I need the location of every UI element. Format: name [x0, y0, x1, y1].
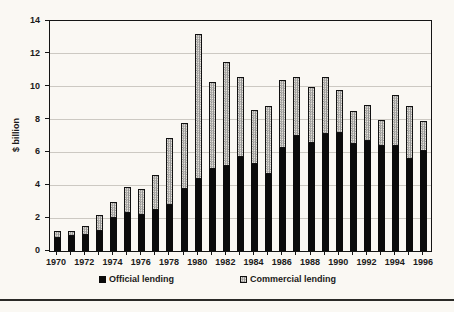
- bar-segment-official: [166, 205, 173, 251]
- x-tick-mark: [338, 252, 339, 255]
- bar-group: [308, 21, 315, 251]
- bar-group: [406, 21, 413, 251]
- bar-segment-official: [54, 238, 61, 251]
- y-tick-label: 6: [10, 146, 40, 156]
- bar-segment-commercial: [336, 90, 343, 133]
- bar-segment-official: [223, 166, 230, 251]
- bar-segment-commercial: [223, 62, 230, 166]
- x-tick-mark: [183, 252, 184, 255]
- bar-segment-commercial: [279, 80, 286, 147]
- x-tick-mark: [380, 252, 381, 255]
- bar-group: [195, 21, 202, 251]
- bar-group: [223, 21, 230, 251]
- bar-group: [152, 21, 159, 251]
- bar-segment-commercial: [251, 110, 258, 164]
- x-tick-mark: [408, 252, 409, 255]
- x-tick-mark: [70, 252, 71, 255]
- y-tick-label: 12: [10, 48, 40, 58]
- x-tick-label: 1994: [385, 257, 405, 267]
- y-tick-label: 14: [10, 15, 40, 25]
- bar-segment-official: [350, 144, 357, 251]
- x-tick-label: 1996: [413, 257, 433, 267]
- bar-segment-commercial: [124, 187, 131, 213]
- bar-segment-commercial: [322, 77, 329, 135]
- bar-segment-commercial: [350, 111, 357, 144]
- bar-segment-official: [181, 189, 188, 251]
- y-axis: 02468101214: [0, 20, 49, 250]
- bar-segment-official: [110, 218, 117, 251]
- x-tick-mark: [112, 252, 113, 255]
- page-horizontal-rule: [0, 299, 454, 301]
- x-tick-mark: [154, 252, 155, 255]
- x-tick-label: 1986: [272, 257, 292, 267]
- bar-group: [420, 21, 427, 251]
- bar-segment-commercial: [420, 121, 427, 151]
- x-tick-mark: [281, 252, 282, 255]
- bar-segment-commercial: [68, 231, 75, 236]
- bar-segment-official: [68, 236, 75, 251]
- x-tick-label: 1984: [244, 257, 264, 267]
- x-tick-mark: [168, 252, 169, 255]
- x-tick-mark: [56, 252, 57, 255]
- bar-segment-commercial: [209, 82, 216, 169]
- bar-group: [293, 21, 300, 251]
- bar-segment-official: [195, 179, 202, 251]
- bar-segment-commercial: [110, 202, 117, 218]
- bar-group: [378, 21, 385, 251]
- bar-group: [181, 21, 188, 251]
- y-tick-label: 10: [10, 81, 40, 91]
- bar-segment-commercial: [181, 123, 188, 189]
- bar-segment-commercial: [364, 105, 371, 141]
- bar-segment-commercial: [378, 120, 385, 146]
- x-tick-mark: [239, 252, 240, 255]
- x-tick-mark: [310, 252, 311, 255]
- legend-item-commercial: Commercial lending: [240, 274, 336, 284]
- x-tick-mark: [295, 252, 296, 255]
- bar-group: [237, 21, 244, 251]
- legend-item-official: Official lending: [99, 274, 174, 284]
- bar-group: [322, 21, 329, 251]
- x-tick-label: 1988: [300, 257, 320, 267]
- bar-segment-official: [308, 143, 315, 251]
- bar-segment-commercial: [96, 215, 103, 231]
- plot-area: [49, 20, 432, 252]
- x-tick-label: 1978: [159, 257, 179, 267]
- official-lending-swatch-icon: [99, 276, 106, 283]
- bar-segment-official: [392, 146, 399, 251]
- bar-segment-official: [152, 210, 159, 251]
- x-tick-label: 1992: [356, 257, 376, 267]
- bar-group: [279, 21, 286, 251]
- legend-label-official: Official lending: [109, 274, 174, 284]
- bar-segment-commercial: [195, 34, 202, 179]
- x-tick-mark: [394, 252, 395, 255]
- bar-group: [110, 21, 117, 251]
- x-tick-mark: [126, 252, 127, 255]
- x-tick-label: 1990: [328, 257, 348, 267]
- bar-segment-official: [406, 159, 413, 251]
- x-tick-mark: [84, 252, 85, 255]
- bar-segment-official: [336, 133, 343, 251]
- x-tick-label: 1972: [74, 257, 94, 267]
- bar-segment-official: [265, 174, 272, 251]
- x-tick-mark: [324, 252, 325, 255]
- scanned-figure-page: $ billion 02468101214 197019721974197619…: [0, 0, 454, 312]
- x-tick-mark: [267, 252, 268, 255]
- bar-segment-official: [279, 148, 286, 252]
- bar-group: [265, 21, 272, 251]
- bar-segment-commercial: [406, 106, 413, 159]
- y-tick-label: 8: [10, 114, 40, 124]
- bar-segment-official: [293, 136, 300, 251]
- x-tick-label: 1976: [131, 257, 151, 267]
- x-tick-mark: [422, 252, 423, 255]
- bar-group: [68, 21, 75, 251]
- bar-segment-official: [420, 151, 427, 251]
- bar-segment-official: [82, 235, 89, 251]
- bar-segment-official: [96, 231, 103, 251]
- x-tick-label: 1970: [46, 257, 66, 267]
- bar-group: [96, 21, 103, 251]
- bar-group: [166, 21, 173, 251]
- bar-group: [209, 21, 216, 251]
- bar-segment-commercial: [166, 138, 173, 205]
- x-tick-mark: [253, 252, 254, 255]
- bar-segment-official: [322, 134, 329, 251]
